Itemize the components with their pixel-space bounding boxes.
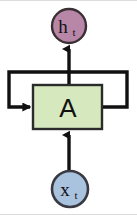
output-node-circle (52, 9, 86, 43)
input-node-circle (52, 171, 88, 207)
cell-label: A (59, 93, 77, 123)
output-node-h: h t (52, 9, 86, 43)
input-node-label: x (60, 179, 70, 200)
input-node-subscript: t (74, 189, 77, 201)
rnn-diagram-canvas: A h t x t (0, 1, 137, 215)
input-node-x: x t (52, 171, 88, 207)
output-node-label: h (58, 16, 68, 37)
rnn-diagram: A h t x t (0, 0, 137, 215)
output-node-subscript: t (72, 26, 75, 38)
cell-node-a: A (33, 85, 102, 129)
